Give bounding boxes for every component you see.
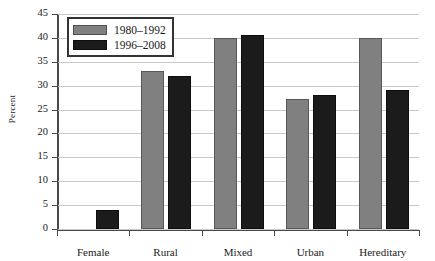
y-tick-label-10: 10 bbox=[26, 175, 48, 185]
bar-hereditary-series-1 bbox=[386, 90, 409, 229]
x-tick-mark-4 bbox=[419, 230, 420, 236]
y-tick-label-45: 45 bbox=[26, 8, 48, 18]
y-tick-label-5: 5 bbox=[26, 199, 48, 209]
x-axis-label-urban: Urban bbox=[274, 246, 346, 258]
legend-swatch-icon-series-0 bbox=[73, 25, 107, 35]
legend-swatch-icon-series-1 bbox=[73, 40, 107, 50]
x-tick-mark-1 bbox=[202, 230, 203, 236]
x-tick-mark-2 bbox=[274, 230, 275, 236]
y-tick-label-35: 35 bbox=[26, 56, 48, 66]
x-tick-mark-3 bbox=[347, 230, 348, 236]
bar-urban-series-0 bbox=[286, 99, 309, 229]
y-tick-label-40: 40 bbox=[26, 32, 48, 42]
bar-group-mixed bbox=[202, 14, 274, 229]
x-axis-label-rural: Rural bbox=[129, 246, 201, 258]
y-axis-title: Percent bbox=[7, 79, 17, 139]
bar-rural-series-0 bbox=[141, 71, 164, 229]
y-tick-label-30: 30 bbox=[26, 80, 48, 90]
bar-group-hereditary bbox=[347, 14, 419, 229]
bar-hereditary-series-0 bbox=[359, 38, 382, 229]
legend: 1980–1992 1996–2008 bbox=[67, 17, 174, 57]
bar-female-series-1 bbox=[96, 210, 119, 229]
y-tick-label-25: 25 bbox=[26, 104, 48, 114]
gridline-0 bbox=[57, 229, 419, 230]
x-tick-mark-origin bbox=[57, 230, 58, 236]
legend-item-series-0: 1980–1992 bbox=[73, 22, 166, 37]
x-tick-mark-0 bbox=[129, 230, 130, 236]
legend-item-series-1: 1996–2008 bbox=[73, 37, 166, 52]
bar-rural-series-1 bbox=[168, 76, 191, 229]
x-axis-label-mixed: Mixed bbox=[202, 246, 274, 258]
bar-urban-series-1 bbox=[313, 95, 336, 229]
legend-label-series-0: 1980–1992 bbox=[114, 24, 166, 36]
legend-label-series-1: 1996–2008 bbox=[114, 39, 166, 51]
bar-chart: Percent 454035302520151050 FemaleRuralMi… bbox=[0, 0, 435, 261]
y-tick-label-15: 15 bbox=[26, 151, 48, 161]
y-tick-label-20: 20 bbox=[26, 127, 48, 137]
bar-group-urban bbox=[274, 14, 346, 229]
y-tick-label-0: 0 bbox=[26, 223, 48, 233]
x-axis-label-female: Female bbox=[57, 246, 129, 258]
bar-mixed-series-1 bbox=[241, 35, 264, 229]
x-axis-label-hereditary: Hereditary bbox=[347, 246, 419, 258]
bar-mixed-series-0 bbox=[214, 38, 237, 229]
